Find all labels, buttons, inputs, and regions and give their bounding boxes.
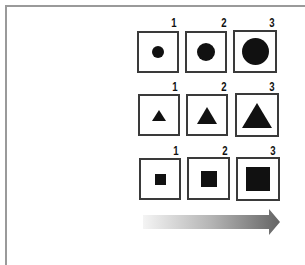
triangle-cell-1 bbox=[138, 94, 180, 136]
triangle-medium-icon bbox=[197, 107, 217, 124]
triangle-cell-2 bbox=[186, 94, 228, 136]
size-label: 3 bbox=[270, 145, 275, 157]
triangle-large-icon bbox=[242, 103, 272, 128]
triangle-cell-3 bbox=[235, 93, 279, 137]
square-small-icon bbox=[155, 174, 166, 185]
size-label: 3 bbox=[269, 81, 274, 93]
size-label: 1 bbox=[171, 17, 176, 29]
size-label: 1 bbox=[173, 145, 178, 157]
size-label: 2 bbox=[221, 81, 226, 93]
size-label: 3 bbox=[269, 17, 274, 29]
square-medium-icon bbox=[201, 171, 217, 187]
square-cell-2 bbox=[187, 157, 230, 200]
size-label: 2 bbox=[221, 17, 226, 29]
circle-small-icon bbox=[152, 46, 164, 58]
square-large-icon bbox=[246, 167, 270, 191]
circle-large-icon bbox=[242, 38, 269, 65]
size-label: 2 bbox=[222, 145, 227, 157]
triangle-small-icon bbox=[152, 110, 166, 121]
circle-medium-icon bbox=[197, 43, 215, 61]
gradient-arrow-right-icon bbox=[143, 209, 280, 235]
size-label: 1 bbox=[172, 81, 177, 93]
square-cell-1 bbox=[139, 158, 181, 200]
square-cell-3 bbox=[236, 157, 280, 201]
circle-cell-3 bbox=[233, 30, 277, 73]
circle-cell-2 bbox=[185, 31, 227, 73]
circle-cell-1 bbox=[137, 31, 179, 73]
